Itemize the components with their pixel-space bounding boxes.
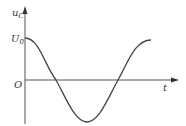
amplitude-label: U0 (11, 33, 24, 46)
capacitor-voltage-diagram: uC U0 O t (0, 0, 186, 126)
origin-label: O (14, 79, 22, 90)
x-axis-label: t (163, 82, 168, 93)
y-axis-label: uC (12, 7, 24, 20)
x-axis-arrow-icon (171, 78, 179, 83)
